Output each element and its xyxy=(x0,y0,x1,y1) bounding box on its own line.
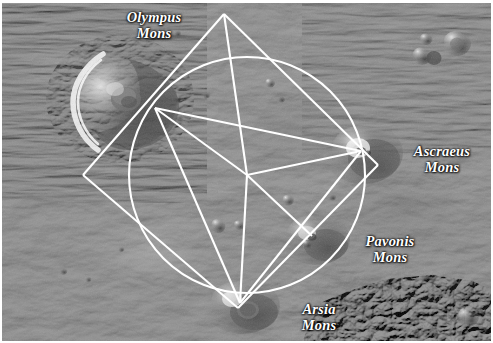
overlay-diamond-edge-3 xyxy=(83,14,224,175)
mars-tharsis-annotated-image: Olympus Mons Ascraeus Mons Pavonis Mons … xyxy=(0,0,493,343)
overlay-lines xyxy=(83,14,378,308)
overlay-spoke-hub-to-pavonis xyxy=(247,175,312,236)
overlay-diamond-edge-2 xyxy=(83,175,238,308)
overlay-spoke-hub-to-arsia xyxy=(240,175,247,303)
mars-surface-photo: Olympus Mons Ascraeus Mons Pavonis Mons … xyxy=(2,3,491,341)
overlay-diamond-edge-0 xyxy=(224,14,378,165)
geometric-overlay-layer xyxy=(2,3,491,341)
overlay-spoke-hub-to-apex xyxy=(224,14,247,175)
